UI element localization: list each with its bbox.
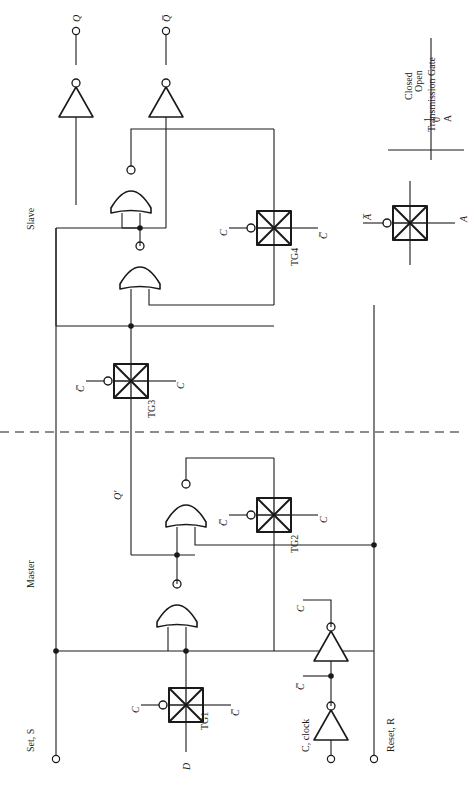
legend-symbol-group [355, 175, 465, 295]
label-tg3-left-signal: C̅ [76, 385, 86, 392]
label-master: Master [26, 560, 36, 588]
label-tg1-left-signal: C [131, 706, 141, 713]
label-slave: Slave [26, 208, 36, 230]
label-clock-c-tap: C [296, 605, 306, 612]
label-tg4: TG4 [290, 248, 300, 266]
label-clock-cbar-tap: C̅ [296, 683, 306, 690]
label-d: D [182, 763, 192, 770]
legend-row-0-state: Open [414, 70, 424, 92]
legend-label-a: A [459, 216, 469, 222]
label-clock: C, clock [301, 719, 311, 752]
label-qprime: Q′ [113, 491, 123, 500]
label-tg2-left-signal: C̅ [219, 519, 229, 526]
legend-label-abar: A̅ [363, 214, 373, 220]
legend-header-input: A [443, 115, 453, 122]
legend-row-1-input: 1 [423, 117, 433, 122]
label-tg3: TG3 [147, 400, 157, 418]
label-reset: Reset, R [386, 718, 396, 752]
legend-tgate-svg [355, 175, 465, 295]
legend-row-0-input: 0 [432, 117, 442, 122]
legend-row-1-state: Closed [404, 72, 414, 100]
label-tg2-right-signal: C [319, 516, 329, 523]
label-tg3-right-signal: C [176, 382, 186, 389]
label-tg4-left-signal: C [219, 229, 229, 236]
label-tg4-right-signal: C̅ [319, 232, 329, 239]
label-q: Q [72, 15, 82, 22]
label-tg1: TG1 [200, 712, 210, 730]
label-set: Set, S [26, 729, 36, 752]
label-tg1-right-signal: C̅ [231, 709, 241, 716]
label-tg2: TG2 [290, 535, 300, 553]
label-qbar: Q̅ [162, 15, 172, 22]
